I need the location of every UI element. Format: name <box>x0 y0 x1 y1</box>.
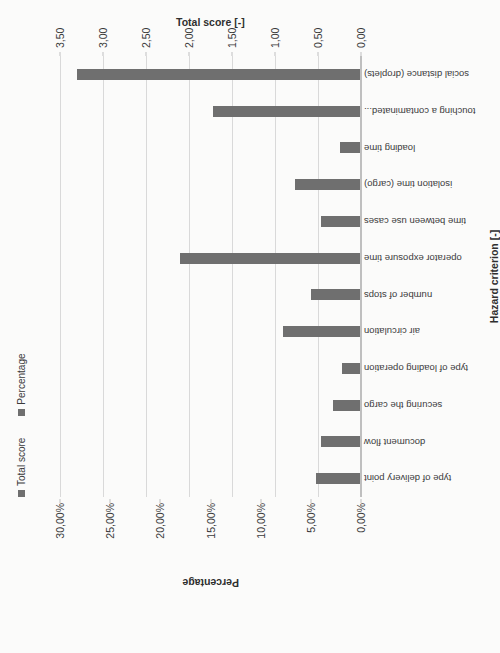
category-label-cell: type of delivery point <box>364 460 484 497</box>
y-axis-right-tick-mark <box>275 52 276 56</box>
category-label-cell: document flow <box>364 424 484 461</box>
bar[interactable] <box>213 106 361 117</box>
category-label-cell: number of stops <box>364 277 484 314</box>
bar[interactable] <box>342 363 361 374</box>
y-axis-right-tick-label: 3,00 <box>97 28 109 48</box>
category-label: type of loading operation <box>364 364 468 374</box>
category-label: document flow <box>364 437 425 447</box>
category-label-cell: social distance (droplets) <box>364 56 484 93</box>
category-label-cell: securing the cargo <box>364 387 484 424</box>
bar-cell <box>60 460 361 497</box>
y-axis-left-tick-mark <box>210 499 211 503</box>
bar[interactable] <box>295 179 361 190</box>
plot-area <box>60 56 361 497</box>
bar[interactable] <box>321 436 361 447</box>
y-axis-right-tick-mark <box>146 52 147 56</box>
bar-cell <box>60 387 361 424</box>
category-label-cell: air circulation <box>364 313 484 350</box>
bar-cell <box>60 203 361 240</box>
bar-cell <box>60 240 361 277</box>
y-axis-right-tick-label: 1,00 <box>269 28 281 48</box>
y-axis-left-tick-label: 20,00% <box>154 503 166 539</box>
y-axis-left-tick-mark <box>310 499 311 503</box>
category-label: touching a contaminated... <box>364 106 475 116</box>
y-axis-right-tick-label: 2,00 <box>183 28 195 48</box>
y-axis-left-tick-mark <box>60 499 61 503</box>
category-label: securing the cargo <box>364 400 442 410</box>
y-axis-left-tick-label: 25,00% <box>104 503 116 539</box>
category-label-cell: type of loading operation <box>364 350 484 387</box>
y-axis-left-tick-label: 30,00% <box>54 503 66 539</box>
legend-label-total-score: Total score <box>16 438 27 486</box>
gridline <box>361 56 362 497</box>
y-axis-title-total-score: Total score [-] <box>60 16 361 28</box>
category-label: air circulation <box>364 327 420 337</box>
y-axis-left-tick-mark <box>260 499 261 503</box>
y-axis-left: 0,00%5,00%10,00%15,00%20,00%25,00%30,00% <box>60 499 361 557</box>
bar[interactable] <box>333 400 361 411</box>
bar-cell <box>60 130 361 167</box>
y-axis-right-tick-label: 0,50 <box>312 28 324 48</box>
y-axis-left-tick-label: 5,00% <box>305 503 317 533</box>
category-label: type of delivery point <box>364 474 451 484</box>
chart-legend: Total score Percentage <box>16 353 27 497</box>
category-label: number of stops <box>364 290 432 300</box>
bar[interactable] <box>311 289 361 300</box>
category-label: social distance (droplets) <box>364 70 469 80</box>
bar[interactable] <box>283 326 361 337</box>
legend-swatch-icon <box>18 490 25 497</box>
bar-cell <box>60 93 361 130</box>
category-label: loading time <box>364 143 415 153</box>
bar[interactable] <box>180 253 361 264</box>
y-axis-right-tick-label: 1,50 <box>226 28 238 48</box>
y-axis-left-tick-mark <box>361 499 362 503</box>
y-axis-right-tick-mark <box>103 52 104 56</box>
y-axis-left-tick-mark <box>110 499 111 503</box>
y-axis-title-percentage: Percentage <box>60 577 361 589</box>
bar[interactable] <box>77 69 361 80</box>
category-label-cell: time between use cases <box>364 203 484 240</box>
bar-cell <box>60 350 361 387</box>
bar-series <box>60 56 361 497</box>
category-label: isolation time (cargo) <box>364 180 452 190</box>
y-axis-right-tick-mark <box>232 52 233 56</box>
category-label: operator exposure time <box>364 253 462 263</box>
legend-item-total-score[interactable]: Total score <box>16 438 27 497</box>
category-label-cell: loading time <box>364 130 484 167</box>
category-label-cell: isolation time (cargo) <box>364 166 484 203</box>
legend-label-percentage: Percentage <box>16 353 27 404</box>
x-axis-title: Hazard criterion [-] <box>488 56 500 497</box>
bar-cell <box>60 56 361 93</box>
legend-item-percentage[interactable]: Percentage <box>16 353 27 415</box>
category-axis-labels: type of delivery pointdocument flowsecur… <box>364 56 484 497</box>
bar[interactable] <box>340 142 362 153</box>
bar[interactable] <box>321 216 361 227</box>
category-label: time between use cases <box>364 217 466 227</box>
category-label-cell: operator exposure time <box>364 240 484 277</box>
category-axis-line <box>360 56 361 497</box>
y-axis-right-tick-mark <box>60 52 61 56</box>
y-axis-right-tick-mark <box>189 52 190 56</box>
y-axis-left-tick-label: 15,00% <box>205 503 217 539</box>
bar-cell <box>60 424 361 461</box>
y-axis-left-tick-mark <box>160 499 161 503</box>
bar[interactable] <box>316 473 361 484</box>
y-axis-right-tick-label: 2,50 <box>140 28 152 48</box>
y-axis-left-tick-label: 0,00% <box>355 503 367 533</box>
y-axis-right-tick-mark <box>318 52 319 56</box>
y-axis-right-tick-label: 0,00 <box>355 28 367 48</box>
bar-cell <box>60 277 361 314</box>
y-axis-left-tick-label: 10,00% <box>255 503 267 539</box>
y-axis-right-tick-mark <box>361 52 362 56</box>
category-label-cell: touching a contaminated... <box>364 93 484 130</box>
legend-swatch-icon <box>18 409 25 416</box>
bar-cell <box>60 313 361 350</box>
bar-cell <box>60 166 361 203</box>
y-axis-right-tick-label: 3,50 <box>54 28 66 48</box>
